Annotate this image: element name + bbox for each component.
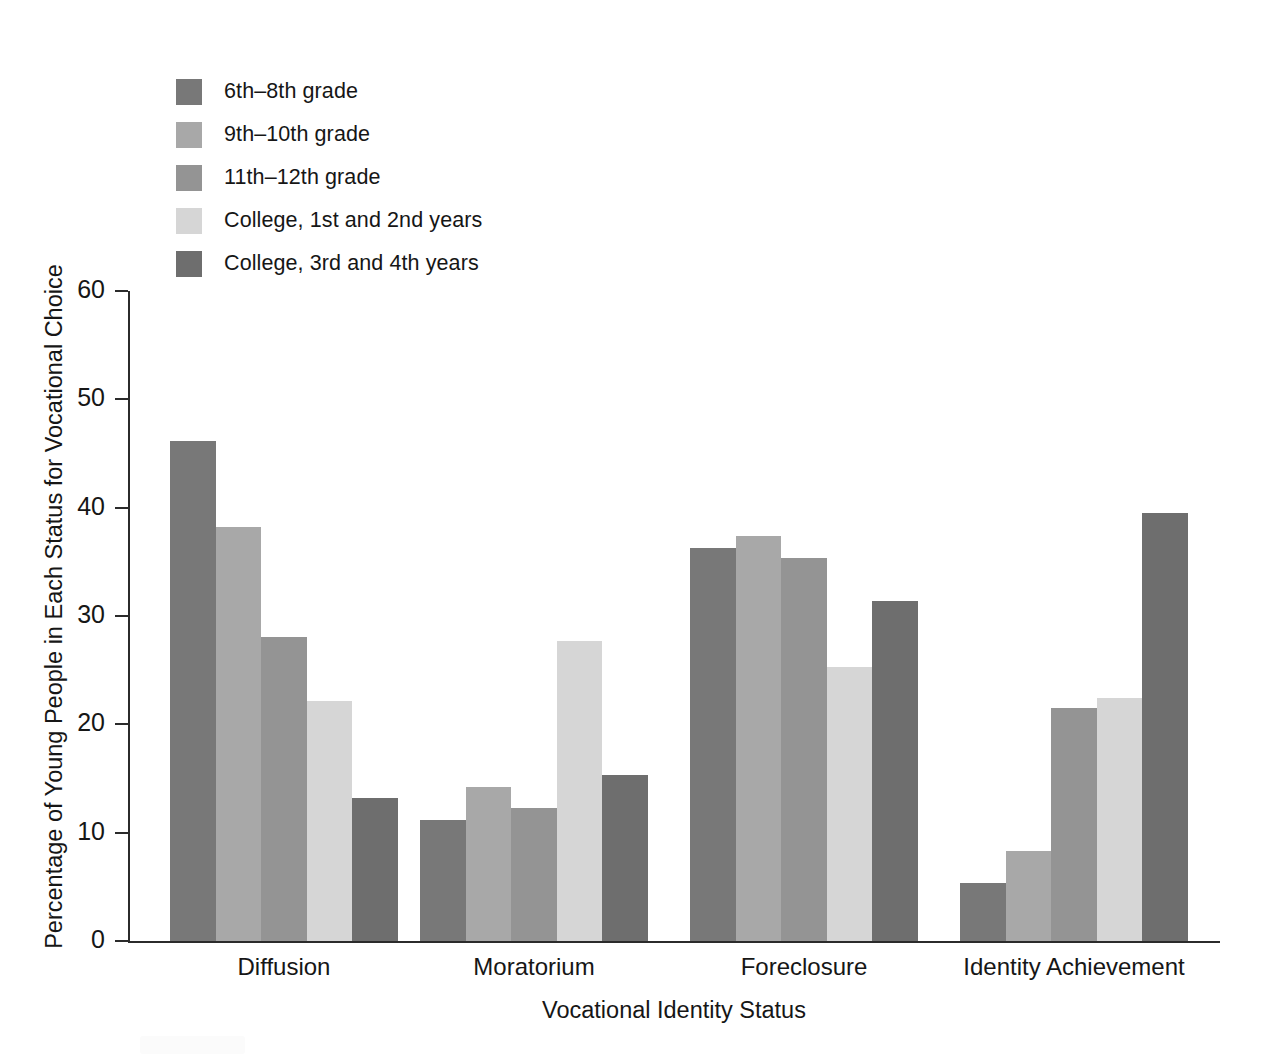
x-axis-line [128, 941, 1220, 943]
y-axis-tick: 0 [115, 940, 128, 942]
y-axis-tick: 40 [115, 507, 128, 509]
legend-item-label: College, 1st and 2nd years [224, 208, 482, 233]
y-axis-tick-label: 20 [77, 708, 105, 737]
bar [352, 798, 398, 941]
bar [1142, 513, 1188, 941]
bar [1051, 708, 1097, 941]
bar [872, 601, 918, 941]
y-axis-tick-label: 60 [77, 275, 105, 304]
legend-item-0: 6th–8th grade [176, 70, 606, 113]
bar [1006, 851, 1052, 941]
y-axis-title-text: Percentage of Young People in Each Statu… [41, 264, 68, 949]
legend-item-label: 9th–10th grade [224, 122, 370, 147]
y-axis-tick-label: 0 [91, 925, 105, 954]
chart-legend: 6th–8th grade9th–10th grade11th–12th gra… [176, 70, 606, 285]
bar [736, 536, 782, 941]
bar [466, 787, 512, 941]
bar [557, 641, 603, 941]
legend-swatch-icon [176, 165, 202, 191]
legend-item-label: 11th–12th grade [224, 165, 381, 190]
bar [781, 558, 827, 942]
x-axis-category-label: Diffusion [238, 953, 331, 981]
y-axis-tick-label: 40 [77, 492, 105, 521]
x-axis-title: Vocational Identity Status [128, 997, 1220, 1024]
y-axis-title: Percentage of Young People in Each Statu… [38, 262, 70, 950]
bar [307, 701, 353, 942]
y-axis-tick: 50 [115, 398, 128, 400]
bar [511, 808, 557, 941]
bar-series-container [128, 291, 1220, 941]
y-axis-tick-label: 50 [77, 383, 105, 412]
legend-swatch-icon [176, 208, 202, 234]
bar [261, 637, 307, 941]
legend-item-3: College, 1st and 2nd years [176, 199, 606, 242]
y-axis-tick-label: 30 [77, 600, 105, 629]
legend-item-2: 11th–12th grade [176, 156, 606, 199]
legend-swatch-icon [176, 79, 202, 105]
y-axis-tick-label: 10 [77, 817, 105, 846]
scan-artifact [140, 1036, 245, 1054]
y-axis-tick: 10 [115, 832, 128, 834]
bar [216, 527, 262, 941]
legend-swatch-icon [176, 122, 202, 148]
legend-item-4: College, 3rd and 4th years [176, 242, 606, 285]
x-axis-category-label: Moratorium [473, 953, 594, 981]
bar [602, 775, 648, 941]
y-axis-tick: 60 [115, 290, 128, 292]
legend-item-label: 6th–8th grade [224, 79, 358, 104]
bar [690, 548, 736, 941]
bar-chart-figure: 6th–8th grade9th–10th grade11th–12th gra… [0, 0, 1270, 1063]
bar [420, 820, 466, 941]
x-axis-category-label: Identity Achievement [963, 953, 1184, 981]
legend-item-1: 9th–10th grade [176, 113, 606, 156]
bar [960, 883, 1006, 942]
bar [1097, 698, 1143, 941]
legend-item-label: College, 3rd and 4th years [224, 251, 479, 276]
y-axis-tick: 20 [115, 723, 128, 725]
x-axis-category-label: Foreclosure [741, 953, 868, 981]
legend-swatch-icon [176, 251, 202, 277]
bar [170, 441, 216, 942]
y-axis-tick: 30 [115, 615, 128, 617]
plot-area: 0102030405060 DiffusionMoratoriumForeclo… [128, 291, 1220, 941]
bar [827, 667, 873, 941]
